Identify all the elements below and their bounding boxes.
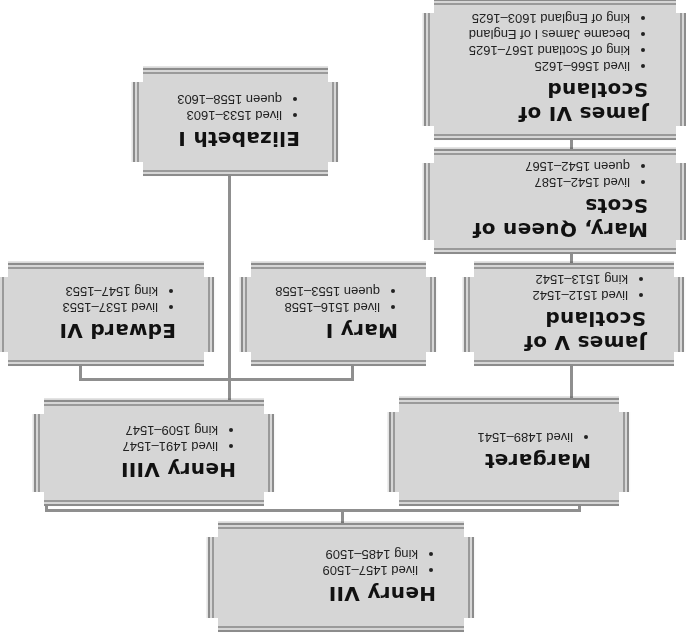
fact-list: lived 1489–1541 [413,429,591,445]
fact-item: king 1485–1509 [232,547,418,563]
corner-ornament [34,497,43,506]
fact-item: lived 1542–1587 [448,175,630,191]
person-name: James VI of Scotland [448,79,648,127]
corner-ornament [424,131,433,140]
corner-ornament [675,263,684,272]
person-name: Mary, Queen of Scots [448,195,648,243]
connector-margaret-james-v [570,362,573,404]
person-box-margaret[interactable]: Margaret lived 1489–1541 [393,402,625,502]
connector-henry-viii-stem [228,172,231,404]
fact-item: king of England 1603–1625 [448,11,630,27]
fact-item: lived 1512–1542 [488,288,628,304]
corner-ornament [205,263,214,272]
corner-ornament [465,623,474,632]
corner-ornament [464,263,473,272]
corner-ornament [208,623,217,632]
person-name: Henry VIII [58,458,236,482]
corner-ornament [208,523,217,532]
corner-ornament [424,0,433,8]
fact-item: lived 1491–1547 [58,438,218,454]
fact-item: lived 1566–1625 [448,59,630,75]
fact-list: lived 1533–1603 queen 1558–1603 [157,91,300,123]
fact-item: king of Scotland 1567–1625 [448,43,630,59]
family-tree: Henry VII lived 1457–1509 king 1485–1509… [0,0,686,634]
corner-ornament [329,167,338,176]
fact-item: queen 1542–1567 [448,159,630,175]
person-box-mary-i[interactable]: Mary I lived 1516–1558 queen 1553–1558 [245,267,432,362]
fact-list: lived 1512–1542 king 1513–1542 [488,272,646,304]
corner-ornament [677,245,686,254]
fact-item: lived 1516–1558 [265,300,380,316]
fact-list: lived 1457–1509 king 1485–1509 [232,547,436,579]
corner-ornament [427,357,436,366]
person-name: Margaret [413,449,591,473]
connector-james-v-mary-qos [570,249,573,269]
corner-ornament [427,263,436,272]
person-box-james-vi[interactable]: James VI of Scotland lived 1566–1625 kin… [428,3,682,136]
corner-ornament [620,398,629,407]
person-box-mary-queen-of-scots[interactable]: Mary, Queen of Scots lived 1542–1587 que… [428,153,682,250]
person-name: Henry VII [232,583,436,607]
person-name: James V of Scotland [488,308,646,356]
corner-ornament [389,398,398,407]
fact-item: queen 1553–1558 [265,284,380,300]
fact-list: lived 1516–1558 queen 1553–1558 [265,284,398,316]
corner-ornament [265,497,274,506]
fact-item: lived 1489–1541 [413,429,573,445]
fact-item: king 1547–1553 [22,284,158,300]
fact-item: lived 1533–1603 [157,107,282,123]
corner-ornament [133,68,142,77]
corner-ornament [675,357,684,366]
corner-ornament [424,245,433,254]
corner-ornament [0,263,7,272]
fact-list: lived 1537–1553 king 1547–1553 [22,284,176,316]
corner-ornament [677,149,686,158]
corner-ornament [0,357,7,366]
person-box-henry-viii[interactable]: Henry VIII lived 1491–1547 king 1509–154… [38,404,270,502]
fact-list: lived 1491–1547 king 1509–1547 [58,422,236,454]
corner-ornament [465,523,474,532]
person-box-james-v[interactable]: James V of Scotland lived 1512–1542 king… [468,267,680,362]
corner-ornament [464,357,473,366]
fact-item: lived 1457–1509 [232,563,418,579]
person-box-elizabeth-i[interactable]: Elizabeth I lived 1533–1603 queen 1558–1… [137,72,334,172]
person-name: Elizabeth I [157,127,300,151]
fact-item: queen 1558–1603 [157,91,282,107]
corner-ornament [677,131,686,140]
connector-henry-vii-children-bar [45,509,581,512]
fact-list: lived 1566–1625 king of Scotland 1567–16… [448,11,648,75]
corner-ornament [34,400,43,409]
corner-ornament [205,357,214,366]
connector-henry-vii-stem [341,510,344,528]
corner-ornament [241,263,250,272]
corner-ornament [424,149,433,158]
corner-ornament [329,68,338,77]
person-box-edward-vi[interactable]: Edward VI lived 1537–1553 king 1547–1553 [2,267,210,362]
corner-ornament [241,357,250,366]
corner-ornament [677,0,686,8]
fact-item: king 1509–1547 [58,422,218,438]
fact-item: became James I of England [448,27,630,43]
fact-item: lived 1537–1553 [22,300,158,316]
person-box-henry-vii[interactable]: Henry VII lived 1457–1509 king 1485–1509 [212,527,470,628]
person-name: Edward VI [22,320,176,344]
fact-list: lived 1542–1587 queen 1542–1567 [448,159,648,191]
corner-ornament [133,167,142,176]
connector-henry-viii-children-bar [79,378,354,381]
connector-to-edward-vi [79,362,82,381]
corner-ornament [389,497,398,506]
corner-ornament [620,497,629,506]
corner-ornament [265,400,274,409]
connector-to-mary-i [351,362,354,381]
fact-item: king 1513–1542 [488,272,628,288]
person-name: Mary I [265,320,398,344]
